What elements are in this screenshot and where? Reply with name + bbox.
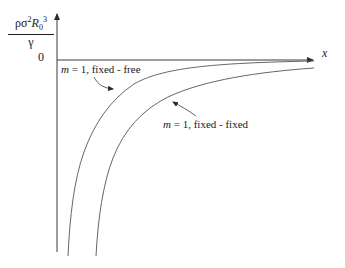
figure-container: ρσ2R03 γ 0 x m = 1, fixed - free m = 1, … bbox=[0, 0, 345, 268]
curve-fixed-fixed bbox=[96, 68, 314, 256]
leader-line-fixed-fixed bbox=[173, 102, 196, 116]
plot-canvas bbox=[0, 0, 345, 268]
leader-line-fixed-free bbox=[94, 77, 113, 89]
curve-fixed-free bbox=[68, 61, 314, 256]
